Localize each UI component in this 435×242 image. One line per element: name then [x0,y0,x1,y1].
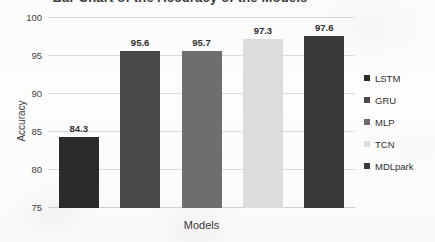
legend-item-label: GRU [375,95,396,106]
bar-value-label: 95.7 [192,37,211,48]
legend-swatch-icon [364,141,370,147]
bar-value-label: 97.6 [315,22,334,33]
bar-gru[interactable]: 95.6 [120,51,160,208]
bar-value-label: 84.3 [69,123,88,134]
bar-rect[interactable] [182,51,222,208]
gridline: 100 [48,17,355,18]
x-axis-title: Models [48,219,355,231]
legend-item-tcn[interactable]: TCN [364,134,435,154]
chart-title: Bar Chart of the Accuracy of the Models [0,0,360,5]
legend-item-gru[interactable]: GRU [364,90,435,110]
legend-item-lstm[interactable]: LSTM [364,68,435,88]
y-tick-label: 80 [31,164,42,175]
bar-value-label: 97.3 [254,25,273,36]
plot-area: 1009590858075 84.395.695.797.397.6 [48,18,355,208]
y-tick-label: 100 [26,12,42,23]
bar-mlp[interactable]: 95.7 [182,51,222,208]
legend-item-label: MLP [375,117,395,128]
bar-rect[interactable] [59,137,99,208]
chart-legend: LSTMGRUMLPTCNMDLpark [364,68,435,178]
bar-lstm[interactable]: 84.3 [59,137,99,208]
legend-swatch-icon [364,75,370,81]
bar-rect[interactable] [304,36,344,208]
legend-swatch-icon [364,97,370,103]
chart-page: Bar Chart of the Accuracy of the Models … [0,0,435,242]
bar-tcn[interactable]: 97.3 [243,39,283,208]
legend-item-label: TCN [375,139,395,150]
legend-item-mlp[interactable]: MLP [364,112,435,132]
y-tick-label: 90 [31,88,42,99]
bar-mdlpark[interactable]: 97.6 [304,36,344,208]
y-tick-label: 75 [31,202,42,213]
y-tick-label: 95 [31,50,42,61]
bar-value-label: 95.6 [131,37,150,48]
legend-item-mdlpark[interactable]: MDLpark [364,156,435,176]
bar-rect[interactable] [120,51,160,208]
legend-item-label: LSTM [375,73,400,84]
legend-swatch-icon [364,119,370,125]
bar-rect[interactable] [243,39,283,208]
y-axis-title: Accuracy [16,100,27,141]
legend-item-label: MDLpark [375,161,414,172]
legend-swatch-icon [364,163,370,169]
y-tick-label: 85 [31,126,42,137]
